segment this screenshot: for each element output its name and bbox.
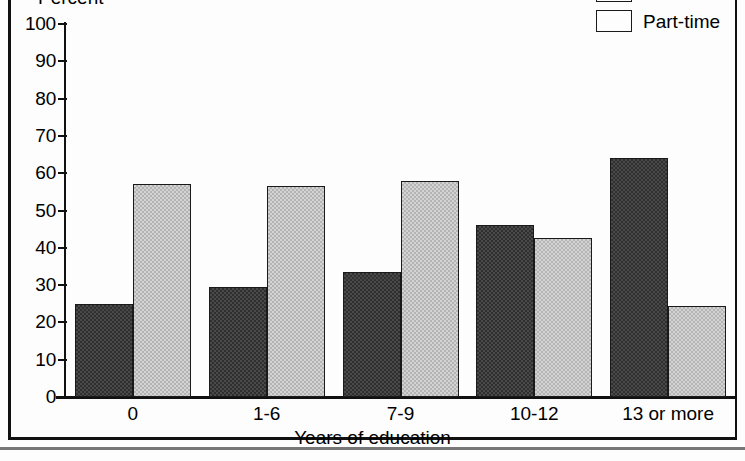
bar-part-time — [267, 186, 325, 397]
y-axis-tick-label: 100 — [10, 14, 56, 33]
bar-part-time — [133, 184, 191, 397]
y-axis-tick-label: 80 — [10, 89, 56, 108]
y-axis-tick-label: 30 — [10, 275, 56, 294]
x-axis-tick-label: 1-6 — [200, 404, 334, 424]
bar-full-time — [209, 287, 267, 397]
bar-part-time — [401, 181, 459, 397]
chart-figure: Percent 1009080706050403020100 01-67-910… — [0, 0, 745, 461]
bar-full-time — [343, 272, 401, 397]
plot-area — [66, 24, 735, 397]
y-axis-tick-label: 10 — [10, 350, 56, 369]
frame-border-right — [735, 0, 737, 440]
y-axis-tick-label: 90 — [10, 51, 56, 70]
x-axis-tick-label: 10-12 — [467, 404, 601, 424]
legend-label: Full time — [643, 0, 715, 1]
bar-full-time — [75, 304, 133, 397]
x-axis-tick-label: 13 or more — [601, 404, 735, 424]
chart-legend: Full timePart-time — [596, 0, 738, 38]
y-axis-tick-label: 70 — [10, 126, 56, 145]
y-axis-tick-label: 50 — [10, 201, 56, 220]
legend-label: Part-time — [643, 12, 720, 31]
y-axis-tick-label: 20 — [10, 312, 56, 331]
x-axis-tick-label: 0 — [66, 404, 200, 424]
x-axis-tick-label: 7-9 — [334, 404, 468, 424]
y-axis-tick-labels: 1009080706050403020100 — [0, 0, 56, 420]
legend-item-part-time[interactable]: Part-time — [596, 8, 738, 34]
y-axis-tick-label: 0 — [10, 387, 56, 406]
legend-swatch-icon — [596, 10, 632, 32]
y-axis-tick-label: 60 — [10, 163, 56, 182]
bar-full-time — [476, 225, 534, 397]
x-axis-title: Years of education — [0, 428, 745, 448]
legend-item-full-time[interactable]: Full time — [596, 0, 738, 4]
bar-full-time — [610, 158, 668, 397]
legend-swatch-icon — [596, 0, 632, 2]
bar-part-time — [668, 306, 726, 397]
y-axis-tick-label: 40 — [10, 238, 56, 257]
bar-part-time — [534, 238, 592, 397]
